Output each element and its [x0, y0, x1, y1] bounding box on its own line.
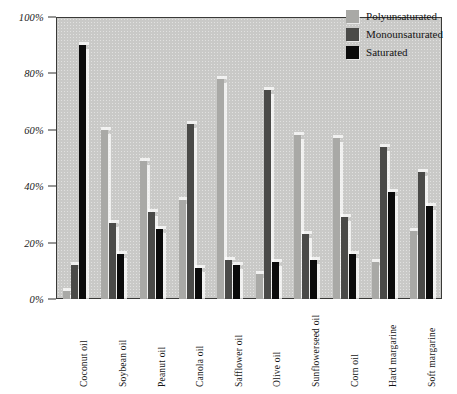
y-axis: 0%20%40%60%80%100%: [0, 0, 56, 394]
legend-item-monounsaturated: Monounsaturated: [346, 28, 443, 41]
x-tick-label-canola-oil: Canola oil: [195, 346, 205, 387]
y-tick-mark: [48, 129, 56, 130]
x-tick-label-soft-margarine: Soft margarine: [427, 328, 437, 387]
legend-label: Polyunsaturated: [366, 11, 437, 22]
plot-texture: [57, 18, 441, 298]
legend-swatch-icon: [346, 10, 359, 23]
legend-swatch-icon: [346, 46, 359, 59]
x-tick-label-coconut-oil: Coconut oil: [79, 340, 89, 387]
legend-label: Monounsaturated: [366, 29, 443, 40]
y-tick-label: 0%: [30, 294, 44, 305]
legend-item-saturated: Saturated: [346, 46, 443, 59]
x-tick-label-soybean-oil: Soybean oil: [118, 340, 128, 387]
x-axis-labels: Coconut oilSoybean oilPeanut oilCanola o…: [56, 301, 442, 393]
x-tick-label-olive-oil: Olive oil: [272, 352, 282, 387]
y-tick-mark: [48, 17, 56, 18]
y-tick-label: 60%: [24, 124, 44, 135]
chart-legend: PolyunsaturatedMonounsaturatedSaturated: [346, 10, 443, 59]
x-tick-label-corn-oil: Corn oil: [350, 354, 360, 387]
y-tick-label: 100%: [19, 12, 44, 23]
y-tick-mark: [48, 242, 56, 243]
y-tick-mark: [48, 73, 56, 74]
fat-composition-bar-chart: 0%20%40%60%80%100% PolyunsaturatedMonoun…: [0, 0, 457, 394]
y-tick-label: 80%: [24, 68, 44, 79]
legend-item-polyunsaturated: Polyunsaturated: [346, 10, 443, 23]
plot-area: [56, 17, 442, 299]
y-tick-label: 20%: [24, 237, 44, 248]
y-tick-mark: [48, 186, 56, 187]
y-tick-label: 40%: [24, 181, 44, 192]
x-tick-label-sunflowerseed-oil: Sunflowerseed oil: [311, 315, 321, 387]
y-tick-mark: [48, 299, 56, 300]
x-tick-label-hard-margarine: Hard margarine: [388, 325, 398, 388]
legend-swatch-icon: [346, 28, 359, 41]
x-tick-label-safflower-oil: Safflower oil: [234, 335, 244, 387]
x-tick-label-peanut-oil: Peanut oil: [157, 347, 167, 387]
legend-label: Saturated: [366, 47, 408, 58]
